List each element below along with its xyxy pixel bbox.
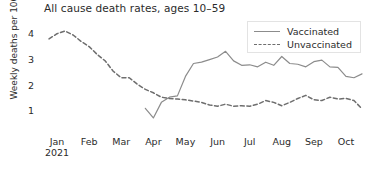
legend-label-unvaccinated: Unvaccinated: [287, 39, 352, 50]
legend-swatch-solid-icon: [254, 31, 280, 32]
legend-entry-unvaccinated[interactable]: Unvaccinated: [254, 38, 352, 51]
legend-label-vaccinated: Vaccinated: [287, 26, 339, 37]
series-line-vaccinated: [145, 51, 362, 118]
legend-entry-vaccinated[interactable]: Vaccinated: [254, 25, 339, 38]
legend: Vaccinated Unvaccinated: [247, 21, 361, 53]
legend-swatch-dashed-icon: [254, 44, 280, 45]
chart-figure: All cause death rates, ages 10–59 Weekly…: [0, 0, 366, 173]
